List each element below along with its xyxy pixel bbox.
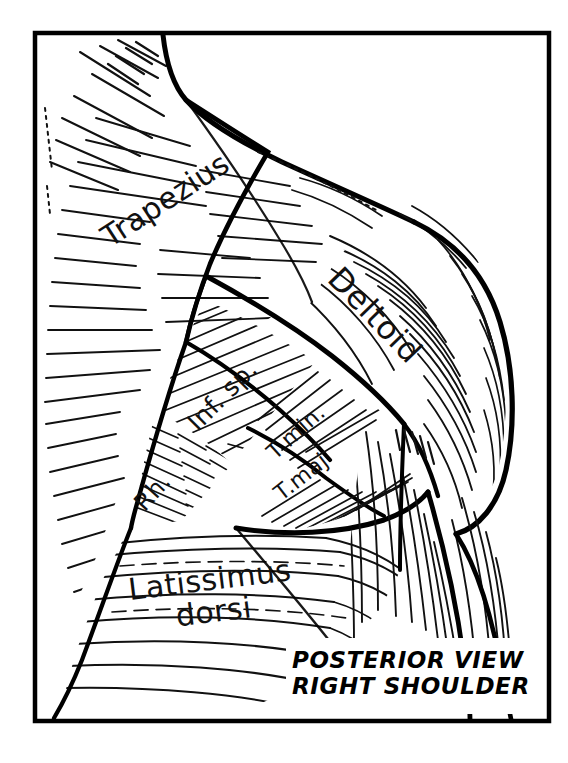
anatomical-illustration: Trapezius Deltoid Inf. sp. T.min. T.maj … (0, 0, 568, 763)
caption-line-right-shoulder: RIGHT SHOULDER (292, 674, 530, 700)
figure-caption: POSTERIOR VIEW RIGHT SHOULDER (292, 648, 530, 700)
caption-line-posterior-view: POSTERIOR VIEW (292, 648, 530, 674)
